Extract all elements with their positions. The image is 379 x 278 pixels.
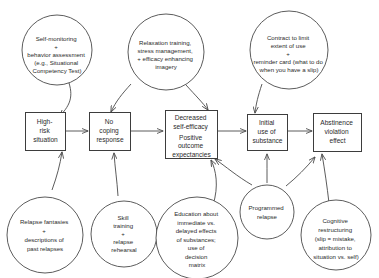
edge-education-to-selfefficacy [211, 160, 216, 205]
relapse-prevention-diagram: High- risk situation No coping response … [0, 0, 379, 278]
edge-relaxation-to-selfefficacy [186, 85, 208, 110]
node-skill-training[interactable]: Skill training + relapse rehearsal [91, 201, 157, 267]
node-high-risk-situation[interactable]: High- risk situation [26, 113, 66, 151]
box-layer: High- risk situation No coping response … [26, 111, 362, 159]
node-abstinence-violation-effect[interactable]: Abstinence violation effect [314, 114, 362, 152]
node-programmed-relapse[interactable]: Programmed relapse [240, 185, 294, 239]
edge-programmedrelapse-to-ave [286, 157, 315, 186]
self-monitoring-label: Self-monitoring + behavior assessment (e… [27, 35, 86, 74]
node-relapse-fantasies[interactable]: Relapse fantasies + descriptions of past… [7, 197, 83, 273]
node-no-coping-response[interactable]: No coping response [90, 113, 131, 151]
node-contract-to-limit-use[interactable]: Contract to limit extent of use + remind… [250, 11, 328, 89]
edge-relaxation-to-nocoping [111, 84, 131, 112]
node-relaxation-training[interactable]: Relaxation training, stress management, … [128, 14, 204, 90]
node-cognitive-restructuring[interactable]: Cognitive restructuring (slip = mistake,… [301, 200, 371, 270]
edge-relapsefantasies-to-highrisk [52, 152, 62, 190]
diagram-canvas: High- risk situation No coping response … [0, 0, 379, 278]
node-education-about-effects[interactable]: Education about immediate vs. delayed ef… [156, 197, 238, 278]
edge-programmedrelapse-to-selfefficacy [215, 159, 252, 185]
edge-contract-to-initialuse [255, 84, 262, 113]
edge-skilltraining-to-nocoping [114, 153, 118, 196]
edge-cognitiverestructuring-to-ave [322, 154, 329, 203]
node-self-monitoring[interactable]: Self-monitoring + behavior assessment (e… [22, 15, 92, 85]
node-decreased-self-efficacy[interactable]: Decreased self-efficacy Positive outcome… [166, 111, 218, 159]
edge-selfmonitoring-to-highrisk [60, 83, 71, 116]
node-initial-use-of-substance[interactable]: Initial use of substance [248, 115, 288, 151]
